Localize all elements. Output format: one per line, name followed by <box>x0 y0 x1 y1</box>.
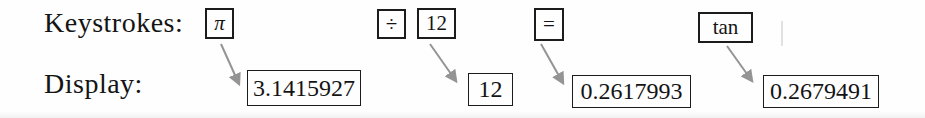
display-value-pi: 3.1415927 <box>253 75 355 102</box>
key-label-tan: tan <box>713 15 739 40</box>
scan-artifact-mark <box>781 21 783 46</box>
display-box-equals-value: 0.2617993 <box>572 75 691 108</box>
key-label-equals: = <box>543 12 555 37</box>
display-box-pi-value: 3.1415927 <box>247 70 361 106</box>
arrow-twelve-to-display <box>430 44 456 81</box>
arrow-pi-to-display <box>221 44 239 84</box>
key-label-divide: ÷ <box>386 12 398 37</box>
key-box-twelve: 12 <box>417 8 456 39</box>
calculator-keystroke-figure: Keystrokes: Display: π ÷ 12 = tan 3.1415… <box>0 0 925 118</box>
key-box-pi: π <box>205 8 234 39</box>
arrow-equals-to-display <box>541 44 563 83</box>
display-value-equals: 0.2617993 <box>581 78 683 105</box>
arrow-tan-to-display <box>727 46 752 81</box>
display-box-tan-value: 0.2679491 <box>763 75 879 108</box>
display-row-label: Display: <box>44 68 143 100</box>
display-value-twelve: 12 <box>479 76 503 103</box>
display-box-twelve-value: 12 <box>468 73 513 106</box>
key-box-divide: ÷ <box>377 9 406 39</box>
key-label-twelve: 12 <box>426 11 447 36</box>
key-box-equals: = <box>534 8 564 41</box>
display-value-tan: 0.2679491 <box>770 78 872 105</box>
keystrokes-row-label: Keystrokes: <box>44 7 183 39</box>
key-label-pi: π <box>214 11 225 36</box>
key-box-tan: tan <box>698 12 753 43</box>
scan-shadow <box>0 111 925 118</box>
